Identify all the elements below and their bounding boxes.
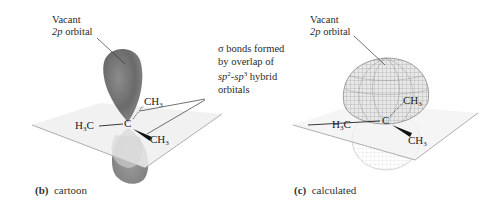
caption-c: (c) calculated <box>294 184 356 196</box>
atom-h3c-left: H3C <box>75 119 94 133</box>
atom-ch3-upper: CH3 <box>144 95 163 109</box>
cartoon-orbital-drawing <box>0 0 250 207</box>
vacant-label-c: Vacant 2p orbital <box>310 14 351 38</box>
figure-b-cartoon: Vacant 2p orbital CH3 H3C C CH3 (b) cart… <box>0 0 250 207</box>
calculated-orbital-drawing <box>250 0 501 207</box>
atom-ch3-lower: CH3 <box>150 133 169 147</box>
atom-carbon-center: C <box>382 114 389 126</box>
vacant-label-b: Vacant 2p orbital <box>52 14 93 38</box>
atom-ch3-upper: CH3 <box>403 94 422 108</box>
figure-c-calculated: Vacant 2p orbital CH3 H3C C CH3 (c) calc… <box>250 0 501 207</box>
atom-carbon-center: C <box>124 117 131 129</box>
atom-ch3-lower: CH3 <box>408 134 427 148</box>
atom-h3c-left: H3C <box>332 118 351 132</box>
caption-b: (b) cartoon <box>35 184 87 196</box>
